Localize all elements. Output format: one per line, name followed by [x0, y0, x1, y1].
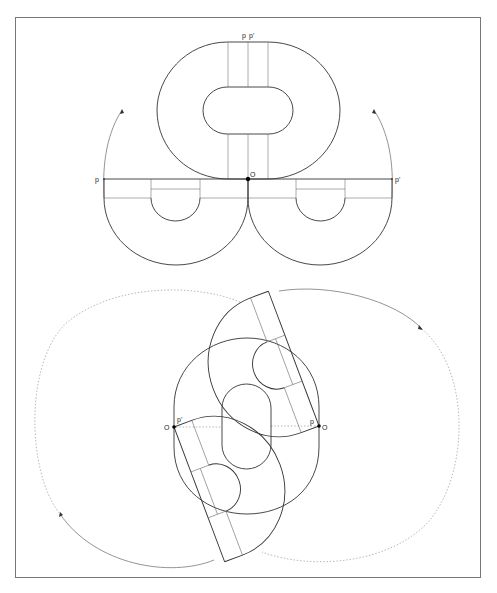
right-rotation-arc	[374, 110, 392, 198]
top-panel: p p' O p p'	[95, 32, 400, 265]
inner-stadium	[203, 87, 293, 134]
label-origin-left: O	[164, 424, 170, 431]
label-p-left: p	[95, 176, 99, 184]
origin-right-point	[317, 424, 321, 428]
p-left-point	[103, 178, 105, 180]
origin-left-point	[172, 425, 176, 429]
right-arrow-icon	[372, 109, 376, 114]
left-dotted-circle	[35, 290, 240, 514]
left-j-shape	[104, 179, 248, 265]
right-solid-arc	[279, 289, 422, 329]
label-p-top: p	[242, 32, 246, 40]
outer-loop-rotated	[174, 338, 319, 514]
outer-loop	[157, 42, 340, 179]
diagram-canvas: p p' O p p' O p' p O	[0, 0, 497, 593]
label-p-right: p	[310, 418, 314, 426]
bottom-panel: O p' p O	[35, 289, 459, 568]
lower-j-shape	[174, 397, 305, 562]
left-rotation-arc	[104, 110, 122, 198]
label-p-prime-left: p'	[177, 416, 182, 424]
left-solid-arc	[60, 514, 214, 568]
p-right-point	[391, 178, 393, 180]
right-j-shape	[248, 179, 392, 265]
label-origin-right: O	[322, 424, 328, 431]
inner-stadium-rotated	[222, 384, 271, 469]
left-arrow-icon-2	[59, 512, 63, 517]
right-dotted-circle	[262, 329, 459, 562]
label-origin: O	[250, 171, 256, 178]
left-arrow-icon	[120, 109, 124, 114]
upper-j-shape	[188, 291, 319, 456]
label-p-prime-top: p'	[249, 32, 254, 40]
label-p-prime-right: p'	[395, 176, 400, 184]
